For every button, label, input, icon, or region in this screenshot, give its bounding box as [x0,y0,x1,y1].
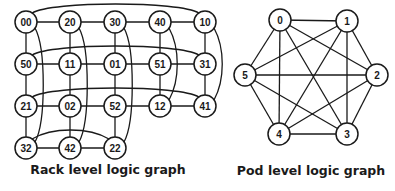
node-label: 40 [154,17,166,28]
pod-node-3: 3 [336,123,358,145]
node-label: 22 [109,143,121,154]
rack-node-00: 00 [15,11,37,33]
node-label: 00 [20,17,32,28]
rack-node-30: 30 [104,11,126,33]
pod-graph-caption: Pod level logic graph [237,163,385,178]
node-label: 41 [199,101,211,112]
rack-node-12: 12 [149,95,171,117]
rack-node-31: 31 [194,53,216,75]
rack-node-40: 40 [149,11,171,33]
rack-node-22: 22 [104,137,126,159]
curved-edge-20-42 [79,28,87,142]
node-label: 21 [20,101,32,112]
edge-0-4 [279,20,280,134]
rack-graph-caption: Rack level logic graph [30,162,185,177]
node-label: 51 [154,59,166,70]
node-label: 3 [344,129,350,140]
node-label: 30 [109,17,121,28]
rack-node-51: 51 [149,53,171,75]
pod-node-2: 2 [366,64,388,86]
node-label: 5 [242,70,248,81]
rack-node-41: 41 [194,95,216,117]
node-label: 2 [374,70,380,81]
node-label: 12 [154,101,166,112]
rack-node-50: 50 [15,53,37,75]
node-label: 52 [109,101,121,112]
node-label: 02 [64,101,76,112]
node-label: 0 [277,15,283,26]
rack-node-21: 21 [15,95,37,117]
node-label: 32 [20,143,32,154]
pod-node-0: 0 [269,9,291,31]
rack-node-01: 01 [104,53,126,75]
rack-node-02: 02 [59,95,81,117]
edge-3-5 [245,75,347,134]
pod-node-1: 1 [336,10,358,32]
rack-node-42: 42 [59,137,81,159]
node-label: 01 [109,59,121,70]
rack-node-32: 32 [15,137,37,159]
node-label: 4 [276,129,282,140]
curved-edge-00-32 [35,28,43,142]
curved-edge-30-22 [124,28,132,142]
pod-node-5: 5 [234,64,256,86]
node-label: 42 [64,143,76,154]
node-label: 11 [65,59,76,70]
node-label: 20 [64,17,76,28]
pod-graph-edges [245,20,377,134]
node-label: 1 [344,16,350,27]
node-label: 10 [199,17,211,28]
rack-node-20: 20 [59,11,81,33]
pod-graph-nodes: 012345 [234,9,388,145]
rack-node-52: 52 [104,95,126,117]
rack-node-10: 10 [194,11,216,33]
node-label: 50 [20,59,32,70]
rack-node-11: 11 [59,53,81,75]
node-label: 31 [199,59,211,70]
pod-node-4: 4 [268,123,290,145]
